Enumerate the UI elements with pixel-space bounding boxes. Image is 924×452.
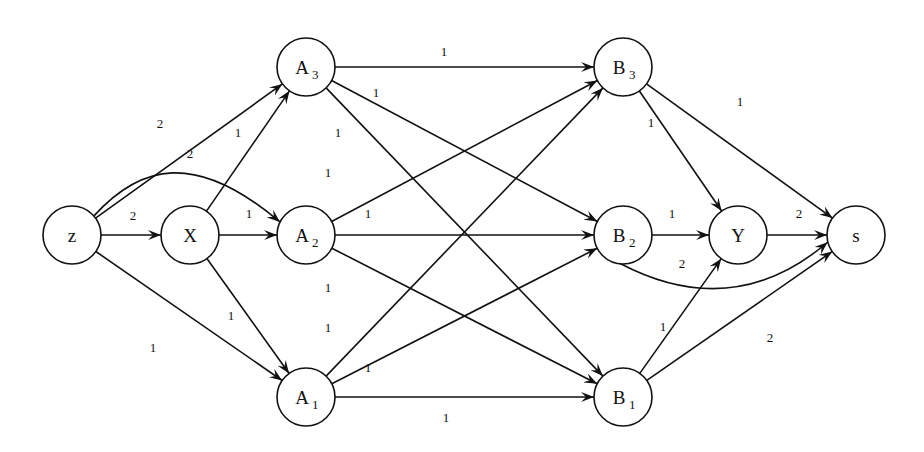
edge-weight-A1-B1: 1 (443, 410, 450, 425)
edge-weight-X-A3: 1 (235, 125, 242, 140)
node-X: X (161, 206, 219, 264)
node-z: z (43, 206, 101, 264)
node-label: Y (731, 225, 745, 246)
edge-weight-A1-B2: 1 (365, 360, 372, 375)
edge-B1-to-s (647, 252, 832, 381)
node-B1: B1 (594, 368, 652, 426)
node-label: z (68, 225, 76, 246)
edge-weight-B3-Y: 1 (648, 115, 655, 130)
node-label: A (295, 387, 309, 408)
edge-weight-A3-B1: 1 (335, 125, 342, 140)
flow-network-diagram: 22211111111111111112212 zXA3A2A1B3B2B1Ys (0, 0, 924, 452)
edge-weight-B1-Y: 1 (660, 319, 667, 334)
edge-weight-A2-B1: 1 (325, 280, 332, 295)
node-A3: A3 (277, 38, 335, 96)
edge-weight-B2-s: 2 (679, 256, 686, 271)
node-subscript: 1 (312, 397, 319, 412)
node-label: s (852, 225, 859, 246)
node-label: B (613, 225, 626, 246)
node-subscript: 3 (629, 67, 636, 82)
edge-weight-B2-Y: 1 (669, 206, 676, 221)
node-s: s (827, 206, 885, 264)
edge-weight-z-A1: 1 (150, 340, 157, 355)
edge-weight-A1-B3: 1 (325, 320, 332, 335)
edge-weight-X-A1: 1 (228, 308, 235, 323)
edge-z-to-A1 (96, 252, 282, 381)
edge-weight-Y-s: 2 (796, 206, 803, 221)
node-A1: A1 (277, 368, 335, 426)
node-label: B (613, 57, 626, 78)
edge-weight-A2-B3: 1 (325, 165, 332, 180)
edge-weight-A3-B3: 1 (441, 44, 448, 59)
node-subscript: 1 (629, 397, 636, 412)
edge-weight-B1-s: 2 (767, 330, 774, 345)
node-subscript: 2 (629, 235, 636, 250)
node-subscript: 3 (312, 67, 319, 82)
edge-weight-B3-s: 1 (737, 94, 744, 109)
edge-weight-X-A2: 1 (246, 206, 253, 221)
edge-weight-z-X: 2 (130, 208, 137, 223)
edge-weight-z-A2: 2 (187, 146, 194, 161)
node-B3: B3 (594, 38, 652, 96)
edge-weight-A2-B2: 1 (365, 206, 372, 221)
edge-weight-z-A3: 2 (157, 116, 164, 131)
node-subscript: 2 (312, 235, 319, 250)
node-label: A (295, 57, 309, 78)
node-Y: Y (709, 206, 767, 264)
network-graph: 22211111111111111112212 zXA3A2A1B3B2B1Ys (0, 0, 924, 452)
node-A2: A2 (277, 206, 335, 264)
node-B2: B2 (594, 206, 652, 264)
node-label: A (295, 225, 309, 246)
node-label: B (613, 387, 626, 408)
edge-weight-A3-B2: 1 (373, 85, 380, 100)
node-label: X (183, 225, 197, 246)
